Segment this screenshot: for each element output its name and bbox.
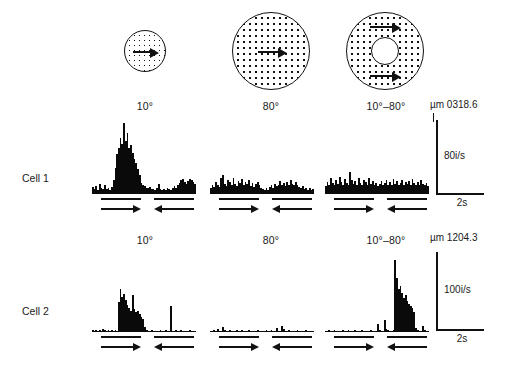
epoch-marker-leftward [154,336,194,352]
depth-label-cell1: µm 0318.6 [430,99,477,110]
epoch-marker-leftward [272,198,312,214]
condition-label-row1-col1: 10° [110,100,180,112]
condition-label-row1-col2: 80° [236,100,306,112]
epoch-marker-leftward [387,198,427,214]
scale-bar-cell2: 100i/s 2s [436,252,496,334]
epoch-markers-cell2-10deg [92,336,196,352]
arrow-right-icon [219,205,259,213]
psth-bars [92,256,196,332]
figure-canvas: 10° 80° 10°–80° µm 0318.6 Cell 1 [0,0,509,370]
time-axis-line [436,329,484,331]
time-scale-label: 2s [448,333,476,344]
condition-label-row1-col3: 10°–80° [346,100,426,112]
rate-axis-line [436,120,438,194]
psth-bars [92,118,196,194]
condition-label-row2-col3: 10°–80° [346,234,426,246]
row-label-cell2: Cell 2 [22,305,49,317]
psth-bars [210,118,314,194]
epoch-marker-rightward [219,198,259,214]
arrow-right-icon [219,343,259,351]
depth-tick-cell1 [433,113,434,122]
epoch-marker-leftward [272,336,312,352]
psth-bars [325,256,429,332]
arrow-left-icon [272,205,312,213]
epoch-marker-rightward [101,336,141,352]
time-scale-label: 2s [448,197,476,208]
depth-label-cell2: µm 1204.3 [430,232,477,243]
time-axis-line [436,193,484,195]
psth-cell2-10-80deg [325,256,429,332]
stimulus-dotted-annulus [346,12,424,90]
scale-bar-cell1: 80i/s 2s [436,120,496,198]
stimulus-large-dotted-disc [232,12,310,90]
psth-cell2-80deg [210,256,314,332]
rate-axis-line [436,252,438,330]
epoch-marker-leftward [387,336,427,352]
rate-scale-label: 80i/s [444,150,465,161]
arrow-left-icon [272,343,312,351]
condition-label-row2-col2: 80° [236,234,306,246]
epoch-markers-cell2-10-80deg [325,336,429,352]
psth-bars [210,256,314,332]
arrow-right-icon [334,205,374,213]
arrow-left-icon [154,343,194,351]
epoch-markers-cell1-10-80deg [325,198,429,214]
epoch-marker-rightward [334,198,374,214]
psth-cell1-10-80deg [325,118,429,194]
arrow-right-icon [101,205,141,213]
stimulus-row [0,0,509,95]
arrow-right-icon [334,343,374,351]
epoch-marker-rightward [334,336,374,352]
epoch-marker-leftward [154,198,194,214]
psth-cell2-10deg [92,256,196,332]
psth-cell1-10deg [92,118,196,194]
epoch-marker-rightward [219,336,259,352]
psth-cell1-80deg [210,118,314,194]
condition-label-row2-col1: 10° [110,234,180,246]
epoch-markers-cell1-80deg [210,198,314,214]
rate-scale-label: 100i/s [444,284,471,295]
row-label-cell1: Cell 1 [22,172,49,184]
arrow-left-icon [154,205,194,213]
epoch-markers-cell1-10deg [92,198,196,214]
annulus-inner-hole [371,37,399,65]
arrow-right-icon [101,343,141,351]
psth-bars [325,118,429,194]
arrow-left-icon [387,205,427,213]
epoch-marker-rightward [101,198,141,214]
arrow-left-icon [387,343,427,351]
stimulus-small-dotted-disc [124,30,166,72]
epoch-markers-cell2-80deg [210,336,314,352]
